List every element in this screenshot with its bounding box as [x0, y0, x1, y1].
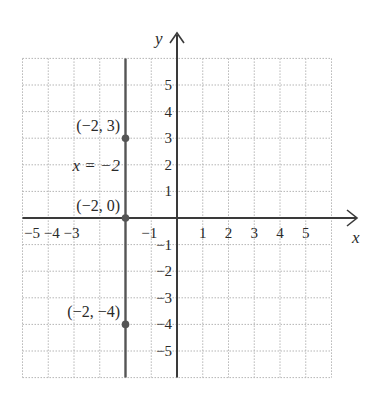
point-label-neg2-3: (−2, 3) — [76, 117, 120, 135]
equation-label: x = −2 — [72, 156, 121, 175]
x-tick-label: 5 — [302, 225, 310, 241]
series — [122, 58, 130, 377]
point-label-neg2-0: (−2, 0) — [76, 197, 120, 215]
y-tick-label: −1 — [156, 237, 172, 253]
y-tick-label: 2 — [165, 157, 173, 173]
y-tick-label: −5 — [156, 343, 172, 359]
x-tick-label: 1 — [199, 225, 207, 241]
y-tick-label: 5 — [165, 77, 173, 93]
y-tick-label: 3 — [165, 130, 173, 146]
y-tick-label: 1 — [165, 183, 173, 199]
annotations: (−2, 3)(−2, 0)(−2, −4)x = −2 — [67, 117, 120, 321]
axes: xy — [23, 29, 361, 378]
y-axis-label: y — [153, 29, 163, 48]
y-tick-label: −2 — [156, 263, 172, 279]
data-point — [122, 214, 130, 222]
data-point — [122, 134, 130, 142]
x-tick-label: 4 — [276, 225, 284, 241]
x-tick-labels-negative: −5 −4 −3 — [24, 225, 79, 241]
data-point — [122, 321, 130, 329]
coordinate-plane: xy −5 −4 −3−11234554321−1−2−3−4−5 (−2, 3… — [0, 0, 382, 404]
x-tick-label: 2 — [225, 225, 233, 241]
x-axis-label: x — [351, 228, 360, 247]
y-tick-label: −4 — [156, 316, 172, 332]
x-tick-label: 3 — [251, 225, 259, 241]
y-tick-label: −3 — [156, 290, 172, 306]
point-label-neg2-neg4: (−2, −4) — [67, 303, 120, 321]
x-tick-label: −1 — [141, 225, 157, 241]
y-tick-label: 4 — [165, 104, 173, 120]
